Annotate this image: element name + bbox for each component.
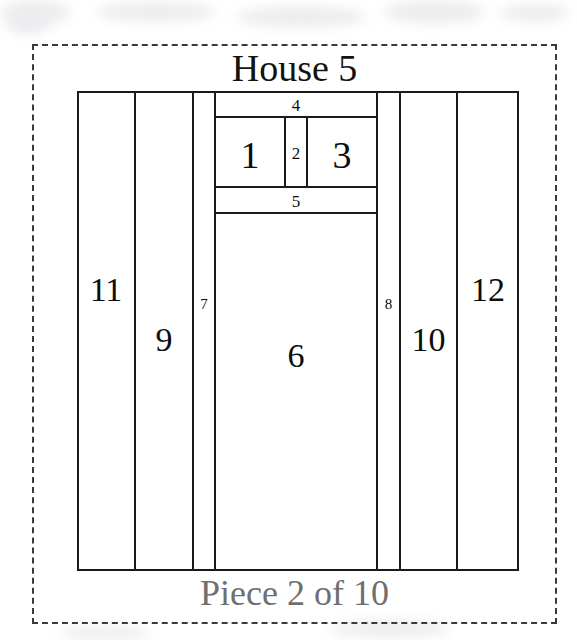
region-label-1: 1 [216,136,284,174]
region-label-5: 5 [216,193,376,210]
region-label-11: 11 [78,273,134,307]
floorplan-region-3[interactable]: 3 [307,117,377,187]
floorplan-region-10[interactable]: 10 [400,91,457,571]
page-title: House 5 [32,46,557,90]
floorplan-region-1[interactable]: 1 [215,117,285,187]
floorplan-region-9[interactable]: 9 [135,91,193,571]
floorplan-region-2[interactable]: 2 [285,117,307,187]
region-label-6: 6 [216,339,376,373]
piece-counter-caption: Piece 2 of 10 [32,572,557,614]
floorplan-region-12[interactable]: 12 [457,91,519,571]
region-label-10: 10 [401,323,456,357]
region-label-4: 4 [216,97,376,114]
region-label-12: 12 [458,273,518,307]
region-label-2: 2 [286,145,306,162]
floorplan-region-5[interactable]: 5 [215,187,377,213]
floorplan-diagram: House 5 123456789101112 Piece 2 of 10 [0,0,577,640]
region-label-3: 3 [308,136,376,174]
region-label-9: 9 [136,323,192,357]
floorplan-region-4[interactable]: 4 [215,91,377,117]
region-label-8: 8 [378,297,399,312]
floorplan-region-7[interactable]: 7 [193,91,215,571]
floorplan-region-6[interactable]: 6 [215,213,377,571]
floorplan-region-8[interactable]: 8 [377,91,400,571]
region-label-7: 7 [194,297,214,312]
floorplan-region-11[interactable]: 11 [77,91,135,571]
